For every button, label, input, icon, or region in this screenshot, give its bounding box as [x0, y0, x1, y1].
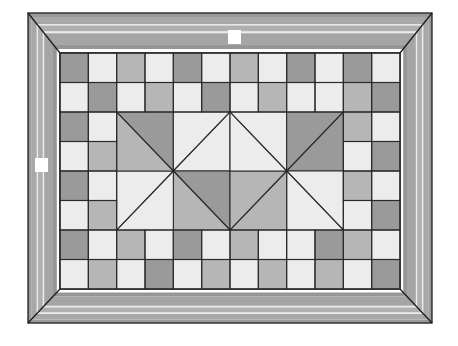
quilt-patch-r1-c4 — [173, 83, 201, 113]
quilt-patch-r1-c8 — [287, 83, 315, 113]
quilt-patch-r4-c10 — [343, 171, 371, 201]
quilt-patch-r0-c1 — [88, 53, 116, 83]
quilt-patch-r0-c8 — [287, 53, 315, 83]
quilt-patch-r6-c8 — [287, 230, 315, 260]
quilt-patch-r1-c0 — [60, 83, 88, 113]
quilt-patch-r2-c0 — [60, 112, 88, 142]
quilt-patch-r7-c7 — [258, 260, 286, 290]
quilt-patch-r7-c4 — [173, 260, 201, 290]
quilt-patch-r4-c1 — [88, 171, 116, 201]
frame-band-outer-field-bottom — [31, 314, 429, 320]
quilt-patch-r6-c11 — [372, 230, 400, 260]
frame-band-mid-field-right — [417, 26, 422, 313]
quilt-patch-r6-c0 — [60, 230, 88, 260]
quilt-patch-r1-c11 — [372, 83, 400, 113]
frame-band-inner-bevel-right — [403, 44, 407, 296]
quilt-patch-r5-c11 — [372, 201, 400, 231]
quilt-patch-r6-c4 — [173, 230, 201, 260]
frame-band-inner-field-right — [407, 33, 416, 306]
frame-band-inner-field-bottom — [44, 296, 416, 305]
frame-band-outer-field-right — [423, 17, 429, 320]
quilt-patch-r7-c9 — [315, 260, 343, 290]
quilt-patch-r4-c11 — [372, 171, 400, 201]
quilt-patch-r1-c9 — [315, 83, 343, 113]
frame-band-inner-bevel-bottom — [53, 292, 407, 296]
quilt-patch-r1-c5 — [202, 83, 230, 113]
quilt-patch-r0-c3 — [145, 53, 173, 83]
quilt-patch-r1-c10 — [343, 83, 371, 113]
quilt-patch-r7-c2 — [117, 260, 145, 290]
quilt-patch-r3-c11 — [372, 142, 400, 172]
quilt-patch-r5-c0 — [60, 201, 88, 231]
frame-band-highlight-1-right — [422, 24, 423, 314]
frame-band-mid-field-bottom — [38, 307, 422, 312]
quilt-patch-r2-c10 — [343, 112, 371, 142]
quilt-patch-r0-c7 — [258, 53, 286, 83]
quilt-patch-r0-c11 — [372, 53, 400, 83]
quilt-patch-r3-c0 — [60, 142, 88, 172]
quilt-patch-r5-c10 — [343, 201, 371, 231]
quilt-patch-r7-c0 — [60, 260, 88, 290]
quilt-patch-r4-c0 — [60, 171, 88, 201]
quilt-patch-r6-c9 — [315, 230, 343, 260]
quilt-patch-r0-c0 — [60, 53, 88, 83]
quilt-patch-r6-c10 — [343, 230, 371, 260]
quilt-patch-r1-c1 — [88, 83, 116, 113]
left-marker-tag — [35, 158, 48, 172]
quilt-patch-r7-c1 — [88, 260, 116, 290]
quilt-patch-r1-c2 — [117, 83, 145, 113]
quilt-patch-r6-c3 — [145, 230, 173, 260]
quilt-patch-r6-c7 — [258, 230, 286, 260]
frame-band-inner-bevel-top — [53, 44, 407, 49]
quilt-patch-r0-c10 — [343, 53, 371, 83]
frame-band-outer-field-top — [31, 17, 429, 24]
quilt-patch-r7-c8 — [287, 260, 315, 290]
pinwheel-star-left — [117, 112, 230, 230]
quilt-patch-r0-c6 — [230, 53, 258, 83]
quilt-patch-r1-c6 — [230, 83, 258, 113]
quilt-patch-r3-c10 — [343, 142, 371, 172]
pinwheel-star-right — [230, 112, 343, 230]
quilt-patch-r2-c1 — [88, 112, 116, 142]
quilt-patch-r0-c5 — [202, 53, 230, 83]
quilt-field — [60, 53, 400, 289]
frame-band-inner-bevel-left — [53, 44, 57, 296]
frame-band-highlight-2-bottom — [43, 306, 417, 307]
quilt-patch-r7-c11 — [372, 260, 400, 290]
frame-band-highlight-1-bottom — [37, 312, 423, 313]
frame-band-highlight-1-top — [37, 24, 423, 26]
quilt-patch-r6-c5 — [202, 230, 230, 260]
quilt-patch-r7-c6 — [230, 260, 258, 290]
quilt-patch-r6-c1 — [88, 230, 116, 260]
quilt-patch-r2-c11 — [372, 112, 400, 142]
artwork-canvas — [0, 0, 458, 346]
quilt-patch-r3-c1 — [88, 142, 116, 172]
frame-band-highlight-2-right — [416, 32, 417, 308]
quilt-patch-r7-c10 — [343, 260, 371, 290]
quilt-patch-r6-c2 — [117, 230, 145, 260]
quilt-patch-r0-c2 — [117, 53, 145, 83]
quilt-patch-r0-c9 — [315, 53, 343, 83]
quilt-patch-r5-c1 — [88, 201, 116, 231]
quilt-patch-r1-c3 — [145, 83, 173, 113]
quilt-patch-r7-c3 — [145, 260, 173, 290]
quilt-patch-r6-c6 — [230, 230, 258, 260]
top-marker-tag — [228, 30, 241, 44]
quilt-patch-r0-c4 — [173, 53, 201, 83]
framed-quilt-artwork — [0, 0, 458, 346]
quilt-patch-r7-c5 — [202, 260, 230, 290]
quilt-patch-r1-c7 — [258, 83, 286, 113]
